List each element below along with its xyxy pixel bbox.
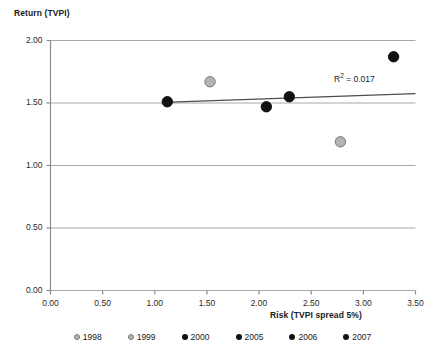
legend-marker-icon	[128, 334, 134, 340]
y-tick-label: 2.00	[13, 35, 43, 45]
legend-item-2005[interactable]: 2005	[236, 332, 264, 342]
legend-marker-icon	[343, 334, 349, 340]
data-point-2007	[388, 52, 398, 62]
x-tick-label: 0.50	[83, 298, 123, 308]
legend-marker-icon	[74, 334, 80, 340]
x-tick-label: 2.00	[239, 298, 279, 308]
x-tick-label: 1.00	[135, 298, 175, 308]
legend-item-1998[interactable]: 1998	[74, 332, 102, 342]
legend-label: 2006	[298, 332, 317, 342]
y-tick-label: 0.50	[13, 222, 43, 232]
y-tick-label: 1.00	[13, 160, 43, 170]
y-tick-label: 0.00	[13, 285, 43, 295]
legend-item-2007[interactable]: 2007	[343, 332, 371, 342]
data-point-2005	[261, 102, 271, 112]
legend-item-2006[interactable]: 2006	[289, 332, 317, 342]
x-tick-label: 3.50	[396, 298, 436, 308]
x-tick-label: 0.00	[31, 298, 71, 308]
legend-marker-icon	[236, 334, 242, 340]
y-tick-label: 1.50	[13, 97, 43, 107]
x-tick-label: 3.00	[343, 298, 383, 308]
legend-marker-icon	[182, 334, 188, 340]
legend-label: 2007	[352, 332, 371, 342]
data-point-2000	[162, 97, 172, 107]
scatter-chart: Return (TVPI) Risk (TVPI spread 5%) 0.00…	[0, 0, 445, 358]
data-point-1999	[335, 137, 345, 147]
chart-legend: 199819992000200520062007	[0, 332, 445, 342]
legend-item-1999[interactable]: 1999	[128, 332, 156, 342]
data-point-1998	[205, 77, 215, 87]
legend-label: 1998	[83, 332, 102, 342]
data-points	[162, 52, 399, 147]
legend-item-2000[interactable]: 2000	[182, 332, 210, 342]
legend-label: 1999	[137, 332, 156, 342]
legend-label: 2000	[191, 332, 210, 342]
x-tick-label: 2.50	[291, 298, 331, 308]
legend-label: 2005	[245, 332, 264, 342]
x-tick-label: 1.50	[187, 298, 227, 308]
data-point-2006	[284, 92, 294, 102]
legend-marker-icon	[289, 334, 295, 340]
r-squared-annotation: R2 = 0.017	[334, 72, 375, 84]
